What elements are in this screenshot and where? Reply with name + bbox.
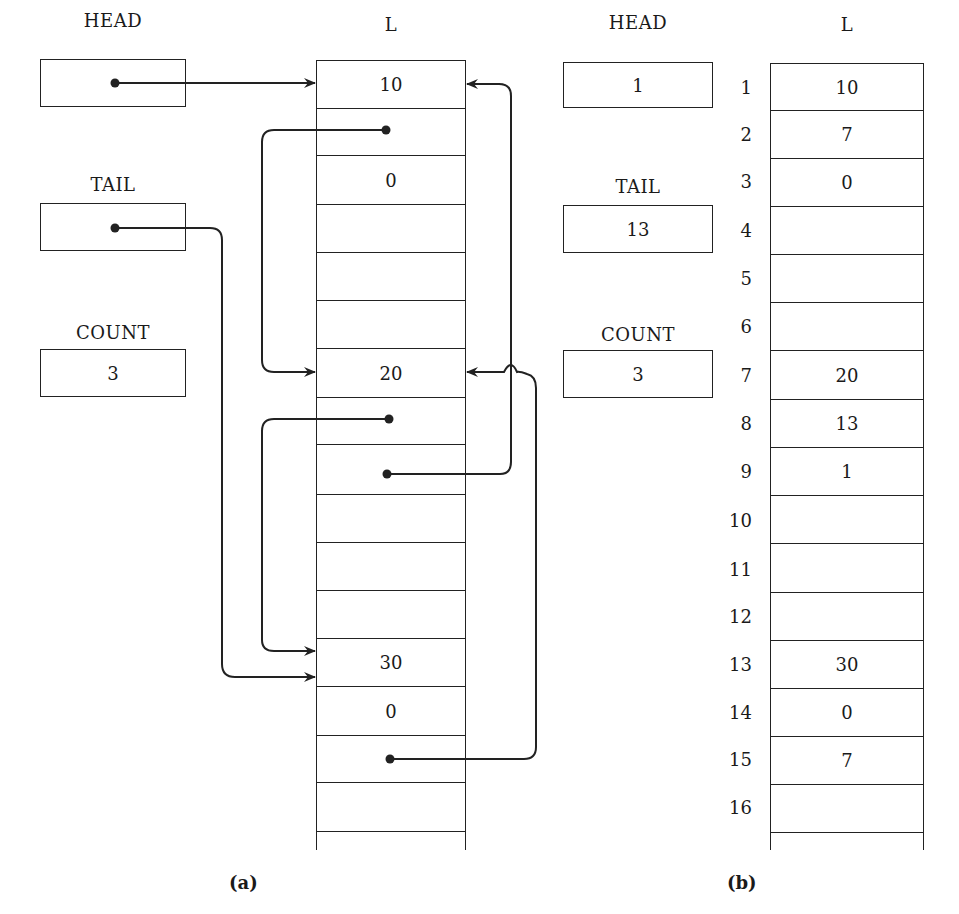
array-a-cell-2 — [317, 108, 465, 155]
tail-box-b: 13 — [563, 205, 713, 253]
array-a-cell-13: 30 — [317, 638, 465, 686]
array-b-cell-10 — [771, 495, 923, 543]
array-b-cell-11 — [771, 543, 923, 592]
head-box — [40, 59, 186, 107]
tail-box — [40, 203, 186, 251]
index-6: 6 — [712, 316, 752, 337]
index-4: 4 — [712, 220, 752, 241]
array-a-cell-14: 0 — [317, 686, 465, 735]
index-5: 5 — [712, 268, 752, 289]
index-1: 1 — [712, 77, 752, 98]
index-15: 15 — [712, 749, 752, 770]
count-label: COUNT — [40, 322, 186, 343]
array-a-cell-9 — [317, 444, 465, 494]
array-b-cell-4 — [771, 206, 923, 254]
array-a: 10 0 20 30 0 — [316, 60, 466, 850]
index-9: 9 — [712, 461, 752, 482]
caption-a: (a) — [229, 872, 258, 893]
array-b-cell-7: 20 — [771, 350, 923, 399]
array-a-cell-12 — [317, 590, 465, 638]
array-b-cell-16 — [771, 784, 923, 832]
array-b-cell-8: 13 — [771, 399, 923, 447]
array-a-cell-11 — [317, 542, 465, 590]
array-b-cell-5 — [771, 254, 923, 302]
tail-label: TAIL — [40, 174, 186, 195]
index-11: 11 — [712, 559, 752, 580]
index-3: 3 — [712, 171, 752, 192]
index-8: 8 — [712, 413, 752, 434]
tail-pointer-arrow — [115, 228, 315, 677]
index-2: 2 — [712, 124, 752, 145]
index-14: 14 — [712, 702, 752, 723]
array-a-cell-6 — [317, 300, 465, 348]
head-label-b: HEAD — [563, 12, 713, 33]
array-a-cell-10 — [317, 494, 465, 542]
array-b-cell-3: 0 — [771, 158, 923, 206]
array-a-cell-8 — [317, 397, 465, 444]
array-b-cell-14: 0 — [771, 688, 923, 736]
array-b-cell-12 — [771, 592, 923, 640]
array-label-b: L — [770, 14, 924, 35]
index-13: 13 — [712, 654, 752, 675]
array-b-cell-13: 30 — [771, 640, 923, 688]
array-a-cell-15 — [317, 735, 465, 782]
array-b: 10 7 0 20 13 1 30 0 7 — [770, 63, 924, 850]
array-b-cell-15: 7 — [771, 736, 923, 784]
array-a-cell-16 — [317, 782, 465, 831]
array-b-cell-6 — [771, 302, 923, 350]
index-7: 7 — [712, 365, 752, 386]
array-b-cell-9: 1 — [771, 447, 923, 495]
array-b-cell-17 — [771, 832, 923, 850]
array-a-cell-7: 20 — [317, 348, 465, 397]
array-a-cell-5 — [317, 252, 465, 300]
head-box-b: 1 — [563, 62, 713, 108]
array-b-cell-1: 10 — [771, 63, 923, 110]
index-16: 16 — [712, 797, 752, 818]
array-a-cell-17 — [317, 831, 465, 850]
array-a-cell-4 — [317, 204, 465, 252]
array-b-cell-2: 7 — [771, 110, 923, 158]
head-label: HEAD — [40, 10, 186, 31]
count-box: 3 — [40, 349, 186, 397]
caption-b: (b) — [727, 872, 757, 893]
array-a-cell-3: 0 — [317, 155, 465, 204]
count-box-b: 3 — [563, 350, 713, 398]
index-12: 12 — [712, 606, 752, 627]
count-label-b: COUNT — [563, 324, 713, 345]
tail-label-b: TAIL — [563, 176, 713, 197]
array-a-cell-1: 10 — [317, 60, 465, 108]
index-10: 10 — [712, 510, 752, 531]
array-label: L — [316, 14, 466, 35]
